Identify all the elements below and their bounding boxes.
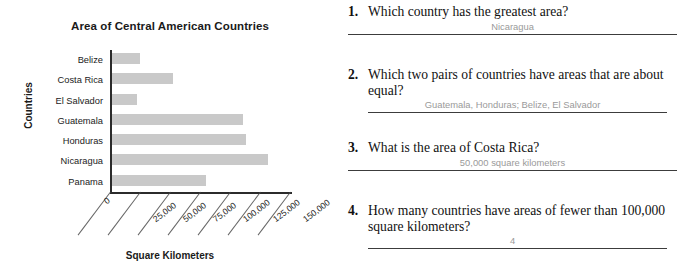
y-tick-label-belize: Belize <box>14 50 107 70</box>
bar-row <box>112 172 292 192</box>
answer-field[interactable]: 4 <box>348 235 677 249</box>
bar-panama <box>112 175 206 186</box>
answer-field[interactable]: Guatemala, Honduras; Belize, El Salvador <box>348 99 677 113</box>
answer-text[interactable]: Nicaragua <box>348 21 677 34</box>
answer-rule <box>348 34 677 35</box>
bar-honduras <box>112 134 246 145</box>
bar-el-salvador <box>112 94 137 105</box>
y-tick-label-panama: Panama <box>14 172 107 192</box>
question-text: How many countries have areas of fewer t… <box>368 203 677 234</box>
question-number: 3. <box>348 140 368 156</box>
bar-row <box>112 111 292 131</box>
y-tick-label-honduras: Honduras <box>14 131 107 151</box>
bar-belize <box>112 53 140 64</box>
answer-text[interactable]: 50,000 square kilometers <box>348 157 677 170</box>
bar-costa-rica <box>112 73 173 84</box>
question-text: Which two pairs of countries have areas … <box>368 67 677 98</box>
answer-field[interactable]: 50,000 square kilometers <box>348 157 677 171</box>
question-text: What is the area of Costa Rica? <box>368 140 539 156</box>
worksheet-page: Area of Central American Countries Count… <box>0 0 677 276</box>
y-tick-label-guatemala: Guatemala <box>14 111 107 131</box>
question-number: 4. <box>348 203 368 219</box>
y-axis-tick-labels: BelizeCosta RicaEl SalvadorGuatemalaHond… <box>14 50 107 192</box>
bar-guatemala <box>112 114 243 125</box>
question-line: 2.Which two pairs of countries have area… <box>348 67 677 98</box>
bar-row <box>112 131 292 151</box>
answer-text[interactable]: 4 <box>348 235 677 248</box>
answer-rule <box>348 170 677 171</box>
question-number: 1. <box>348 4 368 20</box>
bar-row <box>112 70 292 90</box>
x-tick-label: 0 <box>102 195 112 206</box>
question-line: 4.How many countries have areas of fewer… <box>348 203 677 234</box>
answer-field[interactable]: Nicaragua <box>348 21 677 35</box>
question-line: 3.What is the area of Costa Rica? <box>348 140 677 156</box>
bar-chart-figure: Area of Central American Countries Count… <box>0 0 340 276</box>
chart-title: Area of Central American Countries <box>0 20 340 32</box>
question-item-1: 1.Which country has the greatest area?Ni… <box>348 4 677 35</box>
answer-rule <box>368 248 667 249</box>
plot-area <box>110 50 292 192</box>
y-tick-label-el-salvador: El Salvador <box>14 91 107 111</box>
x-axis-title: Square Kilometers <box>70 250 270 261</box>
bar-row <box>112 50 292 70</box>
x-axis-tick-labels: 025,00050,00075,000100,000125,000150,000 <box>110 192 310 247</box>
question-item-4: 4.How many countries have areas of fewer… <box>348 203 677 249</box>
question-number: 2. <box>348 67 368 83</box>
bar-series <box>112 50 292 192</box>
answer-text[interactable]: Guatemala, Honduras; Belize, El Salvador <box>348 99 677 112</box>
x-tick-line <box>108 192 141 236</box>
question-text: Which country has the greatest area? <box>368 4 568 20</box>
bar-row <box>112 91 292 111</box>
question-line: 1.Which country has the greatest area? <box>348 4 677 20</box>
y-tick-label-costa-rica: Costa Rica <box>14 70 107 90</box>
bar-row <box>112 151 292 171</box>
question-item-3: 3.What is the area of Costa Rica?50,000 … <box>348 140 677 171</box>
x-tick-label: 150,000 <box>301 197 332 224</box>
question-item-2: 2.Which two pairs of countries have area… <box>348 67 677 113</box>
y-tick-label-nicaragua: Nicaragua <box>14 151 107 171</box>
questions-panel: 1.Which country has the greatest area?Ni… <box>348 0 677 276</box>
bar-nicaragua <box>112 154 268 165</box>
answer-rule <box>368 112 667 113</box>
